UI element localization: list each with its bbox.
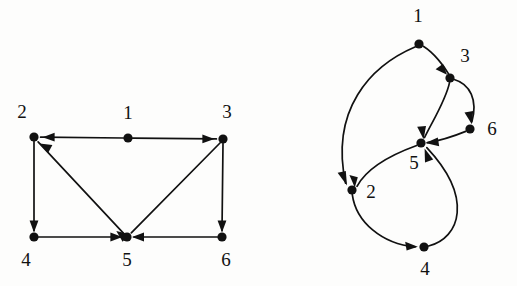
node-6 <box>465 124 474 133</box>
arrowhead-1-to-2 <box>338 171 347 186</box>
node-label-2: 2 <box>366 181 376 202</box>
node-label-6: 6 <box>487 118 497 139</box>
node-3 <box>445 73 454 82</box>
node-1 <box>414 39 423 48</box>
node-1 <box>123 133 132 142</box>
node-2 <box>347 185 356 194</box>
right-graph-arrowheads <box>338 64 474 251</box>
figure-canvas: 1 2 3 4 5 6 <box>0 0 517 286</box>
edge-3-to-5 <box>425 83 450 138</box>
arrowhead-1-to-3 <box>202 135 214 144</box>
arrowhead-3-to-6 <box>465 111 474 124</box>
node-5 <box>416 138 425 147</box>
node-label-6: 6 <box>221 249 231 270</box>
arrowhead-2-to-4 <box>405 242 418 251</box>
left-graph-labels: 1 2 3 4 5 6 <box>17 101 232 270</box>
node-label-4: 4 <box>21 249 31 270</box>
left-graph: 1 2 3 4 5 6 <box>17 101 232 270</box>
left-graph-edges <box>34 137 223 237</box>
node-3 <box>218 134 227 143</box>
arrowhead-3-to-6 <box>218 220 227 232</box>
left-graph-arrowheads <box>30 133 227 242</box>
node-4 <box>419 242 428 251</box>
graph-figure: 1 2 3 4 5 6 <box>0 0 517 286</box>
arrowhead-6-to-5 <box>425 137 439 146</box>
node-label-1: 1 <box>413 5 423 26</box>
arrowhead-2-to-4 <box>30 220 39 232</box>
arrowhead-6-to-5 <box>132 233 144 242</box>
node-label-3: 3 <box>222 101 232 122</box>
node-label-1: 1 <box>123 102 133 123</box>
node-2 <box>29 132 38 141</box>
edge-2-to-4 <box>352 195 415 247</box>
node-6 <box>217 232 226 241</box>
edge-1-to-2 <box>342 47 415 183</box>
node-label-5: 5 <box>122 249 132 270</box>
node-label-5: 5 <box>409 152 419 173</box>
left-graph-nodes <box>29 132 227 241</box>
edge-3-to-6 <box>222 144 223 231</box>
edge-4-to-5 <box>427 148 458 246</box>
node-label-3: 3 <box>460 45 470 66</box>
edge-5-to-2 <box>357 146 417 187</box>
edge-3-to-5 <box>131 143 220 233</box>
node-label-2: 2 <box>17 101 27 122</box>
node-label-4: 4 <box>420 258 430 279</box>
node-4 <box>29 232 38 241</box>
node-5 <box>122 232 131 241</box>
right-graph: 1 3 6 5 2 4 <box>338 5 497 279</box>
edge-5-to-2 <box>38 142 124 233</box>
arrowhead-1-to-2 <box>43 133 55 142</box>
